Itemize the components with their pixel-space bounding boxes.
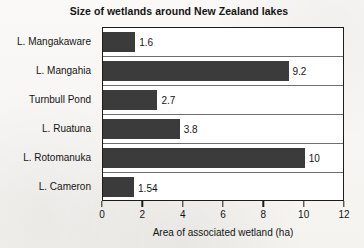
bar-row-4: 10 [103,144,343,173]
x-axis-tick-labels: 024681012 [102,209,344,223]
bar-row-1: 9.2 [103,57,343,86]
bar-1 [103,61,289,81]
bar-row-2: 2.7 [103,86,343,115]
x-tick-label-1: 2 [140,209,146,220]
x-tick-label-4: 8 [261,209,267,220]
bar-2 [103,90,157,110]
bar-value-label-4: 10 [305,153,320,164]
bar-5 [103,177,134,197]
x-tick-1 [142,201,143,207]
bar-3 [103,119,180,139]
x-tick-label-6: 12 [338,209,349,220]
bar-value-label-5: 1.54 [134,182,157,193]
x-tick-6 [343,201,344,207]
y-axis-label-5: L. Cameron [0,172,96,201]
y-axis-label-0: L. Mangakaware [0,27,96,56]
x-axis-title: Area of associated wetland (ha) [102,227,344,238]
bar-row-3: 3.8 [103,115,343,144]
bar-value-label-0: 1.6 [135,37,153,48]
chart-figure: Size of wetlands around New Zealand lake… [0,0,364,248]
y-axis-label-3: L. Ruatuna [0,114,96,143]
plot-area: 1.6 9.2 2.7 3.8 10 1.54 [102,27,344,201]
x-tick-label-5: 10 [298,209,309,220]
y-axis-category-labels: L. Mangakaware L. Mangahia Turnbull Pond… [0,27,96,201]
bar-value-label-2: 2.7 [157,95,175,106]
bar-value-label-1: 9.2 [289,66,307,77]
bar-value-label-3: 3.8 [180,124,198,135]
x-tick-label-0: 0 [99,209,105,220]
bar-4 [103,148,305,168]
x-tick-0 [101,201,102,207]
y-axis-label-2: Turnbull Pond [0,85,96,114]
bar-row-0: 1.6 [103,28,343,57]
x-tick-label-2: 4 [180,209,186,220]
y-axis-label-1: L. Mangahia [0,56,96,85]
x-tick-4 [263,201,264,207]
y-axis-label-4: L. Rotomanuka [0,143,96,172]
chart-title: Size of wetlands around New Zealand lake… [0,5,358,17]
x-tick-3 [222,201,223,207]
bar-0 [103,32,135,52]
x-tick-5 [303,201,304,207]
x-tick-2 [182,201,183,207]
x-tick-label-3: 6 [220,209,226,220]
bar-row-5: 1.54 [103,173,343,202]
x-axis-ticks [102,201,344,209]
